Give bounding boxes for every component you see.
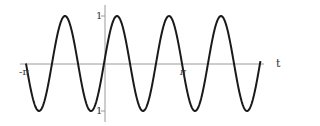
sine-plot [0, 0, 320, 126]
x-axis-label: t [276, 58, 280, 69]
x-tick-label-neg-pi: -π [19, 67, 29, 77]
x-tick-label-pi: π [180, 68, 186, 77]
y-tick-label-neg1: 1 [96, 106, 102, 116]
y-tick-label-1: 1 [96, 11, 102, 21]
